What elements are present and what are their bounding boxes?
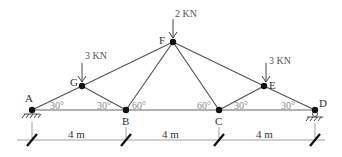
node-D [312,107,318,113]
dimension-label-BC: 4 m [162,128,179,140]
load-label-F: 2 KN [175,8,197,19]
load-label-G: 3 KN [85,50,107,61]
angle-C-left: 60° [197,100,211,111]
label-E: E [269,79,276,91]
node-E [261,83,267,89]
dimension-label-AB: 4 m [68,128,85,140]
angle-C-right: 30° [234,100,248,111]
pin-support-A [22,114,41,118]
node-C [216,107,222,113]
member-F-C [173,42,219,110]
load-arrow-F [169,19,177,38]
dimension-label-CD: 4 m [256,128,273,140]
label-G: G [70,76,78,88]
node-A [29,107,35,113]
label-F: F [159,34,165,46]
label-C: C [215,115,222,127]
label-A: A [25,92,33,104]
member-F-E [173,42,264,86]
member-G-F [82,42,173,86]
node-G [79,83,85,89]
node-F [170,39,176,45]
label-B: B [122,115,129,127]
angle-A: 30° [50,100,64,111]
label-D: D [319,97,327,109]
truss-diagram: A G B F C E D 30° 30° 60° 60° 30° 30° 3 … [0,0,342,157]
load-arrow-G [78,63,86,82]
load-label-E: 3 KN [269,55,291,66]
angle-B-left: 30° [97,100,111,111]
angle-D: 30° [281,100,295,111]
node-B [123,107,129,113]
angle-B-right: 60° [132,100,146,111]
